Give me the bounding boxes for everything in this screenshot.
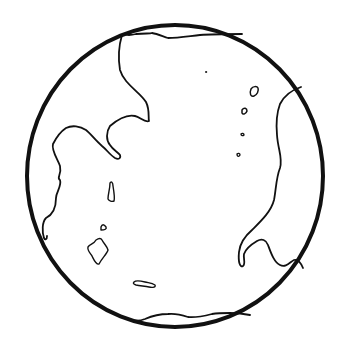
island-small-top-right-4: [237, 153, 240, 156]
island-small-top-right-2: [242, 108, 247, 114]
island-left-2: [101, 225, 106, 230]
island-small-top-right-3: [241, 133, 244, 135]
island-small-top-right-1: [250, 87, 258, 97]
top-left-landmass: [43, 35, 149, 239]
island-left-3: [88, 239, 108, 265]
island-bottom: [133, 281, 155, 288]
globe-svg: [0, 0, 346, 349]
right-landmass: [239, 87, 303, 268]
globe-drawing: Globe line drawing: [0, 0, 346, 349]
dot-top: [205, 71, 206, 72]
island-left-1: [108, 182, 114, 201]
